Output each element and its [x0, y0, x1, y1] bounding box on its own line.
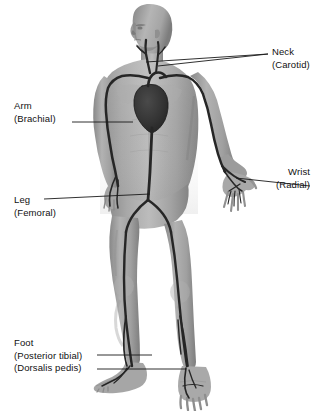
- label-foot-name: Foot: [14, 337, 82, 350]
- label-leg: Leg (Femoral): [14, 194, 56, 219]
- anatomy-diagram-page: Neck (Carotid) Arm (Brachial) Wrist (Rad…: [0, 0, 314, 411]
- label-wrist-artery: (Radial): [276, 179, 310, 192]
- label-foot-artery-posterior-tibial: (Posterior tibial): [14, 350, 82, 363]
- label-neck-artery: (Carotid): [272, 59, 310, 72]
- label-arm-artery: (Brachial): [14, 113, 56, 126]
- label-neck-name: Neck: [272, 46, 310, 59]
- label-foot: Foot (Posterior tibial) (Dorsalis pedis): [14, 337, 82, 375]
- label-arm-name: Arm: [14, 100, 56, 113]
- label-foot-artery-dorsalis-pedis: (Dorsalis pedis): [14, 362, 82, 375]
- label-leg-name: Leg: [14, 194, 56, 207]
- label-arm: Arm (Brachial): [14, 100, 56, 125]
- label-neck: Neck (Carotid): [272, 46, 310, 71]
- label-wrist-name: Wrist: [276, 166, 310, 179]
- label-wrist: Wrist (Radial): [276, 166, 310, 191]
- label-leg-artery: (Femoral): [14, 207, 56, 220]
